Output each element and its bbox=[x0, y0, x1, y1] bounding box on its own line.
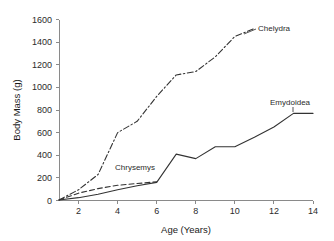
y-tick-label-1600: 1600 bbox=[32, 15, 52, 25]
x-tick-label-14: 14 bbox=[308, 206, 318, 216]
y-tick-label-600: 600 bbox=[37, 128, 52, 138]
x-tick-label-2: 2 bbox=[76, 206, 81, 216]
y-tick-label-400: 400 bbox=[37, 150, 52, 160]
y-tick-label-1400: 1400 bbox=[32, 37, 52, 47]
series-label-chelydra: Chelydra bbox=[258, 24, 291, 33]
y-tick-label-800: 800 bbox=[37, 105, 52, 115]
series-layer bbox=[59, 29, 313, 200]
series-line-chelydra bbox=[59, 29, 254, 200]
series-label-chrysemys: Chrysemys bbox=[115, 163, 155, 172]
x-axis-ticks bbox=[79, 201, 314, 205]
y-axis-title: Body Mass (g) bbox=[11, 79, 22, 140]
y-tick-label-0: 0 bbox=[47, 196, 52, 206]
y-tick-label-1000: 1000 bbox=[32, 82, 52, 92]
x-tick-label-6: 6 bbox=[154, 206, 159, 216]
y-tick-label-200: 200 bbox=[37, 173, 52, 183]
x-tick-label-8: 8 bbox=[193, 206, 198, 216]
y-axis-ticks bbox=[56, 20, 60, 201]
line-chart: 1600 1400 1200 1000 800 600 400 200 0 2 … bbox=[0, 0, 334, 241]
chart-figure: 1600 1400 1200 1000 800 600 400 200 0 2 … bbox=[0, 0, 334, 241]
series-label-emydoidea: Emydoidea bbox=[270, 98, 311, 107]
x-tick-label-4: 4 bbox=[115, 206, 120, 216]
series-line-emydoidea bbox=[59, 113, 313, 200]
x-tick-label-10: 10 bbox=[230, 206, 240, 216]
x-axis-title: Age (Years) bbox=[161, 224, 211, 235]
x-tick-label-12: 12 bbox=[269, 206, 279, 216]
y-tick-label-1200: 1200 bbox=[32, 60, 52, 70]
